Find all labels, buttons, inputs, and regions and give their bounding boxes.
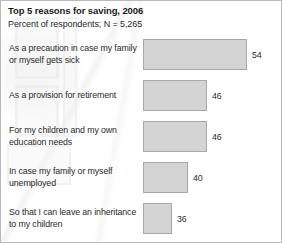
bar-track: 54 — [143, 39, 282, 70]
chart-row: So that I can leave an inheritance to my… — [1, 198, 282, 239]
chart-row: As a provision for retirement 46 — [1, 75, 282, 116]
category-label: So that I can leave an inheritance to my… — [9, 198, 137, 239]
bar-track: 46 — [143, 80, 282, 111]
chart-row: In case my family or myself unemployed 4… — [1, 157, 282, 198]
bar — [143, 162, 188, 193]
bar-value-label: 46 — [207, 121, 222, 152]
chart-card: Top 5 reasons for saving, 2006 Percent o… — [0, 0, 282, 243]
bar-track: 46 — [143, 121, 282, 152]
bar-chart-plot: As a precaution in case my family or mys… — [1, 34, 282, 243]
bar — [143, 203, 172, 234]
category-label: As a precaution in case my family or mys… — [9, 34, 137, 75]
bar-value-label: 46 — [207, 80, 222, 111]
bar — [143, 80, 207, 111]
category-label: In case my family or myself unemployed — [9, 157, 137, 198]
chart-row: As a precaution in case my family or mys… — [1, 34, 282, 75]
chart-header: Top 5 reasons for saving, 2006 Percent o… — [1, 1, 281, 30]
chart-row: For my children and my own education nee… — [1, 116, 282, 157]
category-label: For my children and my own education nee… — [9, 116, 137, 157]
bar-value-label: 40 — [188, 162, 203, 193]
chart-subtitle: Percent of respondents; N = 5,265 — [8, 18, 281, 30]
bar-track: 40 — [143, 162, 282, 193]
chart-title: Top 5 reasons for saving, 2006 — [8, 5, 281, 17]
bar-track: 36 — [143, 203, 282, 234]
category-label: As a provision for retirement — [9, 75, 137, 116]
bar-value-label: 54 — [247, 39, 262, 70]
bar — [143, 39, 247, 70]
bar — [143, 121, 207, 152]
bar-value-label: 36 — [172, 203, 187, 234]
